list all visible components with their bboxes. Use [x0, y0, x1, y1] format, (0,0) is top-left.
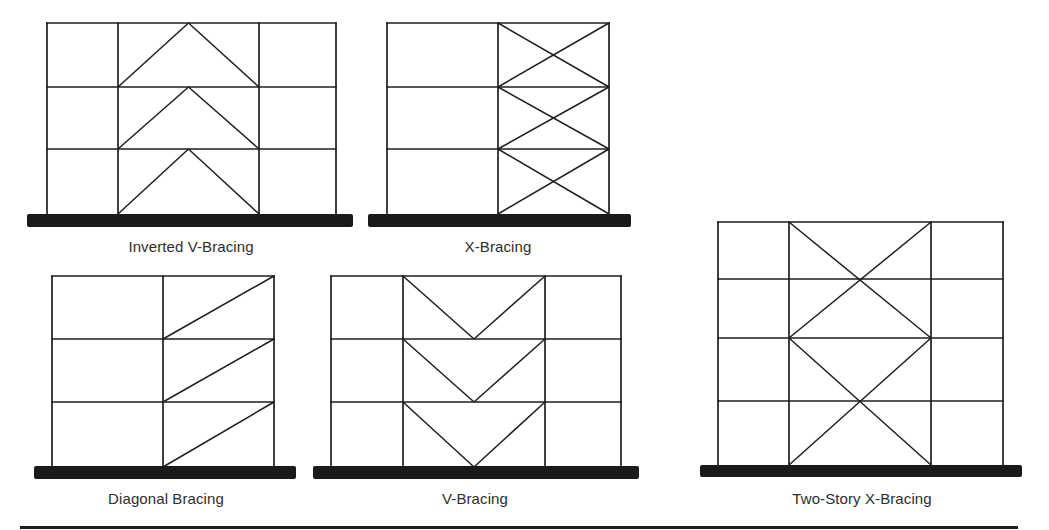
brace-inverted-v — [118, 149, 189, 214]
foundation-slab — [368, 214, 631, 227]
brace-inverted-v — [189, 149, 260, 214]
foundation-slab — [313, 466, 639, 479]
frame-v-bracing — [313, 276, 639, 479]
brace-inverted-v — [189, 87, 260, 149]
foundation-slab — [27, 214, 353, 227]
brace-v — [403, 339, 474, 402]
label-inverted-v-bracing: Inverted V-Bracing — [128, 238, 253, 255]
brace-v — [474, 276, 545, 339]
label-x-bracing: X-Bracing — [465, 238, 532, 255]
brace-diagonal — [163, 339, 274, 402]
frame-inverted-v-bracing — [27, 23, 353, 227]
bracing-diagram — [0, 0, 1049, 530]
label-v-bracing: V-Bracing — [442, 490, 508, 507]
foundation-slab — [700, 465, 1022, 477]
frame-diagonal-bracing — [34, 276, 296, 479]
brace-v — [474, 339, 545, 402]
frame-two-story-x-bracing — [700, 222, 1022, 477]
brace-v — [474, 402, 545, 467]
brace-inverted-v — [118, 87, 189, 149]
brace-v — [403, 402, 474, 467]
brace-inverted-v — [189, 23, 260, 87]
brace-diagonal — [163, 402, 274, 467]
brace-inverted-v — [118, 23, 189, 87]
brace-v — [403, 276, 474, 339]
frame-x-bracing — [368, 23, 631, 227]
label-two-story-x-bracing: Two-Story X-Bracing — [792, 490, 931, 507]
bottom-rule-divider — [20, 526, 1018, 529]
foundation-slab — [34, 466, 296, 479]
brace-diagonal — [163, 276, 274, 339]
label-diagonal-bracing: Diagonal Bracing — [108, 490, 224, 507]
